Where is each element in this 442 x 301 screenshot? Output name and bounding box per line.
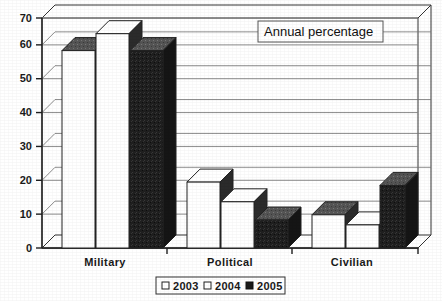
legend-label-2005: 2005 <box>257 280 283 292</box>
category-label-civilian: Civilian <box>331 256 373 268</box>
legend-label-2004: 2004 <box>215 280 241 292</box>
y-tick-label: 50 <box>20 72 32 84</box>
y-tick-label: 0 <box>26 242 32 254</box>
legend-label-2003: 2003 <box>173 280 199 292</box>
x-axis <box>42 248 418 254</box>
annotation-label: Annual percentage <box>264 24 373 39</box>
y-tick-label: 40 <box>20 106 32 118</box>
y-tick-label: 10 <box>20 208 32 220</box>
annotation-box: Annual percentage <box>258 21 383 42</box>
x-category-labels: Military Political Civilian <box>84 256 373 268</box>
y-tick-label: 70 <box>20 12 32 24</box>
bar-political-2005 <box>255 207 301 248</box>
legend: 2003 2004 2005 <box>156 277 285 294</box>
bar-military-2005 <box>130 38 176 248</box>
bar-civilian-2005 <box>380 172 418 248</box>
y-tick-label: 20 <box>20 174 32 186</box>
legend-marker-2005 <box>246 282 253 289</box>
legend-marker-2003 <box>162 282 169 289</box>
legend-marker-2004 <box>204 282 211 289</box>
chart-canvas: 0 10 20 30 40 50 60 70 <box>0 0 442 301</box>
bar-chart: 0 10 20 30 40 50 60 70 <box>0 0 442 301</box>
category-label-political: Political <box>207 256 253 268</box>
y-tick-label: 30 <box>20 140 32 152</box>
category-label-military: Military <box>84 256 126 268</box>
y-tick-labels: 0 10 20 30 40 50 60 70 <box>20 12 32 254</box>
y-axis <box>36 18 42 248</box>
y-tick-label: 60 <box>20 38 32 50</box>
